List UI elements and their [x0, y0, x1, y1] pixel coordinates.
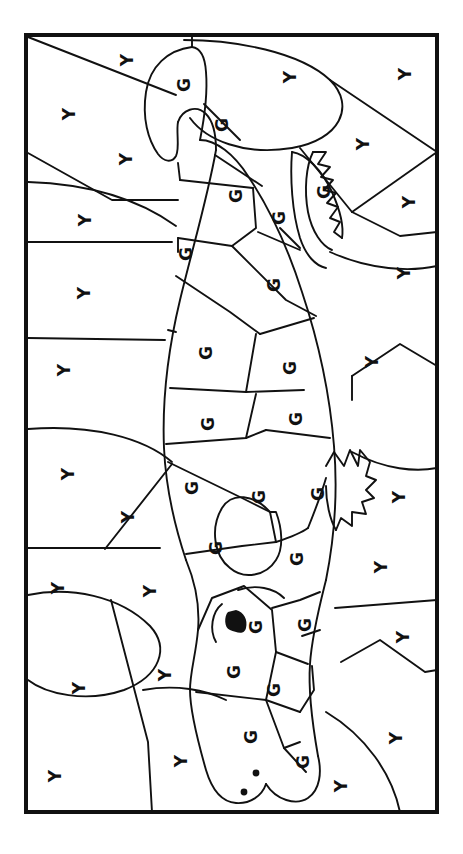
color-key-letter-y: Y: [331, 779, 351, 793]
color-key-letter-y: Y: [75, 213, 95, 227]
color-key-letter-g: G: [174, 78, 194, 92]
nostril-dot-lower: [241, 789, 248, 796]
color-key-letter-y: Y: [117, 53, 137, 67]
coloring-artwork: GGGGGGGGGGGGGGGGGGGGGGYYYYYYYYYYYYYYYYYY…: [0, 0, 463, 854]
color-key-letter-g: G: [176, 247, 196, 261]
color-key-letter-g: G: [182, 481, 202, 495]
color-key-letter-g: G: [295, 618, 315, 632]
color-key-letter-y: Y: [353, 137, 373, 151]
color-key-letter-g: G: [246, 620, 266, 634]
color-key-letter-y: Y: [393, 630, 413, 644]
color-key-letter-g: G: [293, 755, 313, 769]
color-key-letter-y: Y: [280, 70, 300, 84]
color-key-letter-y: Y: [171, 754, 191, 768]
color-key-letter-y: Y: [58, 467, 78, 481]
color-by-letter-worksheet: GGGGGGGGGGGGGGGGGGGGGGYYYYYYYYYYYYYYYYYY…: [0, 0, 463, 854]
color-key-letter-y: Y: [116, 152, 136, 166]
color-key-letter-g: G: [264, 278, 284, 292]
color-key-letter-g: G: [280, 361, 300, 375]
color-key-letter-y: Y: [54, 363, 74, 377]
color-key-letter-y: Y: [386, 731, 406, 745]
color-key-letter-g: G: [241, 730, 261, 744]
color-key-letter-y: Y: [69, 681, 89, 695]
color-key-letter-y: Y: [48, 581, 68, 595]
color-key-letter-g: G: [198, 417, 218, 431]
nostril-dot-upper: [253, 770, 260, 777]
color-key-letter-y: Y: [45, 769, 65, 783]
color-key-letter-g: G: [269, 211, 289, 225]
color-key-letter-y: Y: [155, 668, 175, 682]
color-key-letter-y: Y: [394, 266, 414, 280]
color-key-letter-y: Y: [140, 584, 160, 598]
color-key-letter-g: G: [308, 487, 328, 501]
color-key-letter-g: G: [212, 118, 232, 132]
color-key-letter-g: G: [226, 189, 246, 203]
color-key-letter-g: G: [314, 185, 334, 199]
color-key-letter-g: G: [264, 683, 284, 697]
color-key-letter-g: G: [196, 346, 216, 360]
color-key-letter-y: Y: [395, 67, 415, 81]
color-key-letter-y: Y: [59, 107, 79, 121]
color-key-letter-g: G: [287, 552, 307, 566]
color-key-letter-y: Y: [389, 490, 409, 504]
color-key-letter-y: Y: [371, 560, 391, 574]
color-key-letter-y: Y: [118, 510, 138, 524]
color-key-letter-y: Y: [362, 355, 382, 369]
color-key-letter-y: Y: [74, 286, 94, 300]
color-key-letter-g: G: [249, 490, 269, 504]
color-key-letter-g: G: [206, 541, 226, 555]
color-key-letter-g: G: [224, 665, 244, 679]
color-key-letter-y: Y: [399, 195, 419, 209]
color-key-letter-g: G: [286, 412, 306, 426]
